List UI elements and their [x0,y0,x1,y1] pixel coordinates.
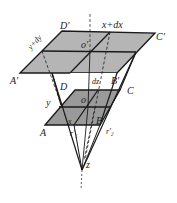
projection-diagram: D' x+dx C' y+dy o' A' dz B' D C o y A x … [0,0,177,203]
label-dz: dz [92,77,100,86]
label-d-prime: D' [59,20,70,31]
label-b: B [96,115,102,126]
label-a: A [39,127,47,138]
label-x-plus-dx: x+dx [101,19,123,30]
label-o-prime: o' [81,39,89,50]
label-b-prime: B' [111,75,120,86]
z-axis-bottom [81,170,82,190]
label-c-prime: C' [156,31,166,42]
label-a-prime: A' [9,75,19,86]
label-r2: r'₂ [106,127,114,136]
label-d: D [59,81,68,92]
label-r1: r'₁ [70,129,78,138]
label-z: z [85,159,90,170]
label-c: C [127,85,134,96]
label-x: x [67,117,72,126]
label-o: o [81,94,86,105]
label-y: y [45,97,51,108]
label-y-plus-dy: y+dy [25,33,44,52]
ray-b [82,125,100,170]
